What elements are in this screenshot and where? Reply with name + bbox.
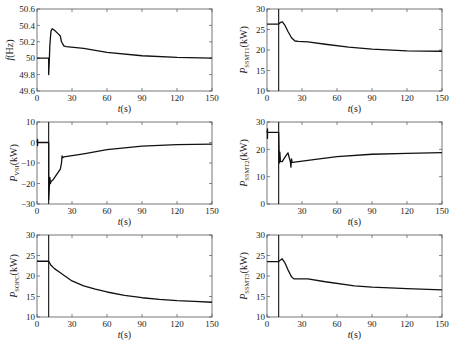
x-tick-label: 30 [68,206,78,216]
series-line [37,261,212,302]
x-tick-label: 0 [265,319,270,329]
x-tick-label: 120 [170,206,184,216]
x-tick-label: 120 [400,319,414,329]
y-axis-label: PVSI(kW) [8,144,20,183]
y-tick-label: 15 [256,66,266,76]
y-axis-label: PSSMT3(kW) [238,252,250,300]
x-tick-label: 60 [103,93,113,103]
x-tick-label: 150 [205,319,219,329]
y-tick-label: 10 [256,172,266,182]
chart-panel-pssmt1: 03060901201501015202530t(s)PSSMT1(kW) [238,4,449,115]
y-tick-label: 30 [256,117,266,127]
y-tick-label: 25 [256,251,266,261]
x-tick-label: 150 [435,319,449,329]
x-tick-label: 150 [205,93,219,103]
y-tick-label: 10 [256,86,266,96]
x-tick-label: 0 [265,93,270,103]
y-tick-label: 25 [256,25,266,35]
x-axis-label: t(s) [348,329,361,341]
y-tick-label: 10 [256,312,266,322]
y-tick-label: 20 [256,45,266,55]
y-tick-label: 20 [256,145,266,155]
y-tick-label: 50.2 [19,37,35,47]
y-tick-label: −30 [21,199,36,209]
x-tick-label: 30 [298,206,308,216]
x-tick-label: 150 [435,93,449,103]
x-tick-label: 90 [368,93,378,103]
x-tick-label: 60 [333,319,343,329]
x-tick-label: 90 [138,93,148,103]
y-tick-label: 50.6 [19,4,35,14]
x-tick-label: 0 [35,93,40,103]
y-tick-label: 20 [256,271,266,281]
y-tick-label: 30 [26,230,36,240]
y-axis-label: PSSMT2(kW) [238,139,250,187]
x-tick-label: 120 [170,319,184,329]
y-tick-label: 30 [256,4,266,14]
x-axis-label: t(s) [118,329,131,341]
y-tick-label: 30 [256,230,266,240]
x-tick-label: 30 [68,93,78,103]
plot-frame [267,235,442,317]
y-tick-label: 15 [26,292,36,302]
chart-panel-pssmt2: 3060901201500102030t(s)PSSMT2(kW) [238,117,449,228]
x-tick-label: 150 [205,206,219,216]
y-tick-label: 0 [31,138,36,148]
series-line [267,129,442,167]
y-tick-label: 50.4 [19,21,35,31]
x-axis-label: t(s) [118,216,131,228]
x-tick-label: 60 [333,93,343,103]
figure: 030609012015049.649.85050.250.450.6t(s)f… [0,0,452,343]
x-tick-label: 120 [400,93,414,103]
x-tick-label: 90 [138,206,148,216]
x-tick-label: 120 [170,93,184,103]
y-axis-label: PSOFC(kW) [8,254,20,298]
x-axis-label: t(s) [348,103,361,115]
y-axis-label: f(Hz) [4,39,16,60]
y-tick-label: 0 [261,199,266,209]
x-axis-label: t(s) [118,103,131,115]
y-tick-label: 15 [256,292,266,302]
series-line [37,29,212,75]
plot-frame [37,235,212,317]
chart-panel-pvsi: 0306090120150−30−20−10010t(s)PVSI(kW) [8,117,219,228]
series-line [267,22,442,52]
x-tick-label: 60 [333,206,343,216]
x-tick-label: 30 [298,319,308,329]
y-tick-label: 10 [26,312,36,322]
y-tick-label: 10 [26,117,36,127]
x-tick-label: 60 [103,206,113,216]
y-tick-label: 20 [26,271,36,281]
x-axis-label: t(s) [348,216,361,228]
y-tick-label: −10 [21,158,36,168]
x-tick-label: 30 [298,93,308,103]
x-tick-label: 0 [35,319,40,329]
plot-frame [37,122,212,204]
chart-panel-freq: 030609012015049.649.85050.250.450.6t(s)f… [4,4,219,115]
x-tick-label: 150 [435,206,449,216]
x-tick-label: 30 [68,319,78,329]
x-tick-label: 0 [35,206,40,216]
x-tick-label: 90 [138,319,148,329]
series-line [267,259,442,290]
x-tick-label: 120 [400,206,414,216]
x-tick-label: 60 [103,319,113,329]
plot-frame [267,9,442,91]
y-tick-label: 25 [26,251,36,261]
y-axis-label: PSSMT1(kW) [238,26,250,74]
x-tick-label: 90 [368,319,378,329]
y-tick-label: 50 [26,53,36,63]
y-tick-label: −20 [21,179,36,189]
chart-panel-pssmt3: 03060901201501015202530t(s)PSSMT3(kW) [238,230,449,341]
plot-frame [37,9,212,91]
x-tick-label: 90 [368,206,378,216]
chart-panel-psofc: 03060901201501015202530t(s)PSOFC(kW) [8,230,219,341]
series-line [37,139,212,199]
y-tick-label: 49.6 [19,86,35,96]
y-tick-label: 49.8 [19,70,35,80]
